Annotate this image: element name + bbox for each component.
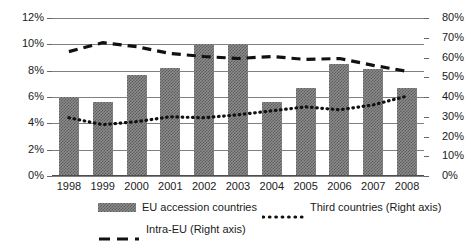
y-axis-left-tick-label: 10%	[0, 38, 44, 49]
x-axis-tick-label: 2007	[356, 179, 390, 193]
y-axis-right-tick	[424, 38, 429, 39]
x-axis-tick-label: 2002	[187, 179, 221, 193]
y-axis-right-tick	[424, 58, 429, 59]
y-axis-right-tick-label: 60%	[442, 52, 464, 63]
y-axis-right-tick-label: 0%	[442, 170, 458, 181]
y-axis-left-tick-label: 4%	[0, 117, 44, 128]
legend-item-eu-accession-countries[interactable]: EU accession countries	[98, 201, 257, 213]
chart-container: 0%2%4%6%8%10%12% 0%10%20%30%40%50%60%70%…	[0, 0, 471, 249]
y-axis-right-tick	[424, 117, 429, 118]
line-series-group	[52, 18, 424, 176]
y-axis-left-tick-label: 6%	[0, 91, 44, 102]
plot-area	[52, 18, 424, 176]
x-axis-tick-label: 1998	[52, 179, 86, 193]
legend-label-third-countries: Third countries (Right axis)	[310, 201, 441, 213]
y-axis-right-tick-label: 50%	[442, 71, 464, 82]
y-axis-left-tick-label: 8%	[0, 65, 44, 76]
line-intra-eu	[69, 43, 407, 72]
dotted-line-swatch-icon	[262, 205, 304, 209]
y-axis-right-tick-label: 20%	[442, 131, 464, 142]
legend-item-third-countries[interactable]: Third countries (Right axis)	[262, 201, 441, 213]
y-axis-right-tick	[424, 77, 429, 78]
chart-legend: EU accession countries Third countries (…	[0, 198, 471, 242]
x-axis-tick-label: 2003	[221, 179, 255, 193]
y-axis-right-tick	[424, 97, 429, 98]
x-axis-labels: 1998199920002001200220032004200520062007…	[52, 179, 424, 195]
y-axis-right-tick	[424, 176, 429, 177]
y-axis-right-tick-label: 40%	[442, 91, 464, 102]
x-axis-tick-label: 1999	[86, 179, 120, 193]
x-axis-tick-label: 2000	[120, 179, 154, 193]
bar-swatch-icon	[98, 203, 136, 212]
y-axis-right-tick-label: 80%	[442, 12, 464, 23]
x-axis-tick-label: 2004	[255, 179, 289, 193]
y-axis-right-tick-label: 70%	[442, 32, 464, 43]
y-axis-right-tick	[424, 137, 429, 138]
x-axis-line	[52, 175, 424, 176]
legend-row-1: EU accession countries Third countries (…	[0, 198, 471, 220]
y-axis-left-tick-label: 0%	[0, 170, 44, 181]
y-axis-right-tick	[424, 156, 429, 157]
x-axis-tick-label: 2001	[153, 179, 187, 193]
y-axis-right-tick-label: 10%	[442, 150, 464, 161]
x-axis-tick-label: 2008	[390, 179, 424, 193]
legend-item-intra-eu[interactable]: Intra-EU (Right axis)	[98, 223, 246, 235]
y-axis-right-tick-label: 30%	[442, 111, 464, 122]
x-axis-tick-label: 2006	[323, 179, 357, 193]
gridline	[52, 176, 424, 177]
legend-label-intra-eu: Intra-EU (Right axis)	[146, 223, 246, 235]
y-axis-left-tick-label: 2%	[0, 144, 44, 155]
legend-row-2: Intra-EU (Right axis)	[0, 220, 471, 242]
y-axis-right-tick	[424, 18, 429, 19]
y-axis-left-tick-label: 12%	[0, 12, 44, 23]
x-axis-tick-label: 2005	[289, 179, 323, 193]
dashed-line-swatch-icon	[98, 227, 140, 231]
line-third-countries	[69, 96, 407, 125]
legend-label-eu-accession-countries: EU accession countries	[142, 201, 257, 213]
